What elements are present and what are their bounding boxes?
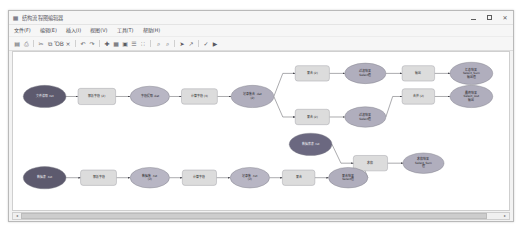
node-start-b[interactable]: 数据表 .txt	[23, 167, 66, 189]
toolbar-separator	[99, 40, 100, 47]
node-parse-b[interactable]: 解析字段	[81, 170, 117, 185]
node-field-a-label: 字段提取 .dat	[141, 93, 160, 98]
horizontal-scrollbar[interactable]: ◂ ▸	[12, 212, 510, 220]
play-icon[interactable]: ▶	[211, 39, 219, 48]
minimize-button[interactable]	[465, 11, 481, 24]
node-convert-a-label: 计算字段 (3)	[191, 93, 208, 98]
node-select-top-label: Select值	[359, 72, 371, 77]
flow-graph[interactable]: 文件读取 .txt解析字段 (2)字段提取 .dat计算字段 (3)记录集合 .…	[13, 52, 509, 210]
node-start-b-label: 数据表 .txt	[37, 174, 53, 179]
node-field-b-label: (2)	[148, 177, 152, 181]
node-hub-a[interactable]: 记录集合 .dat(2)	[231, 85, 274, 107]
title-bar: ▦ 结构流程图编辑器 ✕	[9, 11, 513, 25]
menu-item-view[interactable]: 视图(V)	[89, 27, 108, 34]
node-sum[interactable]: 求和	[353, 155, 387, 170]
menu-item-insert[interactable]: 插入(I)	[65, 27, 82, 34]
menu-item-tools[interactable]: 工具(T)	[116, 27, 135, 34]
align-icon[interactable]: ▣	[121, 39, 129, 48]
diagram-icon: ▦	[12, 14, 19, 21]
node-join-label: 合并 (2)	[413, 93, 424, 98]
node-select-mid-label: Select值	[359, 116, 371, 121]
paste-icon[interactable]: ὌB	[55, 39, 63, 48]
node-select-mid[interactable]: 过滤结果Select值	[345, 107, 386, 128]
node-branch-dark[interactable]: 数据库表 .txt	[289, 133, 332, 155]
toolbar-separator	[174, 40, 175, 47]
cursor-icon[interactable]: ➤	[178, 39, 186, 48]
application-window: ▦ 结构流程图编辑器 ✕ 文件(F)编辑(E)插入(I)视图(V)工具(T)帮助…	[8, 10, 514, 222]
node-convert-b[interactable]: 计算字段	[182, 170, 216, 185]
node-output-top-label: 输出	[415, 70, 421, 75]
node-sum-result[interactable]: 求和结果Select_Sum值	[403, 153, 444, 174]
node-convert-a[interactable]: 计算字段 (3)	[181, 89, 217, 104]
connector-icon[interactable]: ↗	[187, 39, 195, 48]
zoom-in-icon[interactable]: ⌕	[154, 39, 162, 48]
menu-item-edit[interactable]: 编辑(E)	[39, 27, 58, 34]
cut-icon[interactable]: ✂	[37, 39, 45, 48]
node-result-top-label: 输出值	[467, 74, 476, 79]
toolbar-separator	[75, 40, 76, 47]
toolbar-separator	[198, 40, 199, 47]
node-final-label: 输出	[468, 97, 474, 102]
grid-icon[interactable]: ▦	[112, 39, 120, 48]
node-select-top[interactable]: 过滤结果Select值	[345, 63, 386, 84]
close-button[interactable]: ✕	[497, 11, 513, 24]
node-output-top[interactable]: 输出	[402, 66, 434, 81]
node-result-b-label: Select值	[342, 176, 354, 181]
distribute-icon[interactable]: ☰	[130, 39, 138, 48]
scroll-right-button[interactable]: ▸	[501, 213, 509, 219]
node-merge-mid[interactable]: 聚合 (2)	[295, 109, 329, 124]
save-icon[interactable]: ▤	[13, 39, 21, 48]
edge-n5-n6[interactable]	[274, 73, 295, 96]
node-layer: 文件读取 .txt解析字段 (2)字段提取 .dat计算字段 (3)记录集合 .…	[23, 62, 492, 189]
edge-n14-n15[interactable]	[332, 144, 353, 163]
node-join[interactable]: 合并 (2)	[402, 89, 434, 104]
node-parse-b-label: 解析字段	[93, 174, 105, 179]
node-hub-a-label: (2)	[250, 96, 254, 100]
node-field-b[interactable]: 数据集 .txt(2)	[130, 167, 169, 188]
window-title: 结构流程图编辑器	[22, 14, 64, 21]
node-hub-b-label: (2)	[248, 177, 252, 181]
check-icon[interactable]: ✓	[202, 39, 210, 48]
edge-n5-n10[interactable]	[274, 96, 295, 117]
maximize-icon	[487, 15, 492, 20]
window-controls: ✕	[465, 11, 513, 24]
scroll-left-button[interactable]: ◂	[13, 213, 21, 219]
print-icon[interactable]: ⎙	[22, 39, 30, 48]
undo-icon[interactable]: ↶	[79, 39, 87, 48]
plus-icon[interactable]: ✚	[103, 39, 111, 48]
node-result-top[interactable]: 汇总结果Select_Sum输出值	[450, 62, 493, 84]
menu-item-help[interactable]: 帮助(H)	[142, 27, 162, 34]
node-field-a[interactable]: 字段提取 .dat	[130, 86, 169, 107]
node-merge-top[interactable]: 聚合 (2)	[295, 66, 329, 81]
menu-bar: 文件(F)编辑(E)插入(I)视图(V)工具(T)帮助(H)	[9, 25, 513, 37]
node-merge-top-label: 聚合 (2)	[307, 70, 318, 75]
toolbar-separator	[33, 40, 34, 47]
close-icon[interactable]: ×	[64, 39, 72, 48]
node-branch-dark-label: 数据库表 .txt	[302, 141, 321, 146]
redo-icon[interactable]: ↷	[88, 39, 96, 48]
copy-icon[interactable]: ⧉	[46, 39, 54, 48]
menu-item-file[interactable]: 文件(F)	[13, 27, 32, 34]
node-parse-a-label: 解析字段 (2)	[88, 93, 105, 98]
node-final[interactable]: 最终结果Select_Out输出	[450, 85, 493, 107]
maximize-button[interactable]	[481, 11, 497, 24]
edge-n11-n12[interactable]	[386, 96, 402, 117]
node-agg-b[interactable]: 聚合	[282, 170, 314, 185]
toolbar-separator	[150, 40, 151, 47]
close-icon: ✕	[502, 15, 507, 21]
node-hub-b[interactable]: 记录集 .txt(2)	[230, 167, 269, 188]
node-start-a[interactable]: 文件读取 .txt	[23, 85, 66, 107]
node-result-b[interactable]: 聚合结果Select值	[329, 167, 368, 188]
layout-icon[interactable]: ∷	[139, 39, 147, 48]
node-agg-b-label: 聚合	[296, 174, 302, 179]
scrollbar-track[interactable]	[21, 213, 501, 219]
scrollbar-thumb[interactable]	[21, 213, 487, 219]
zoom-out-icon[interactable]: ⌕	[163, 39, 171, 48]
diagram-canvas[interactable]: 文件读取 .txt解析字段 (2)字段提取 .dat计算字段 (3)记录集合 .…	[12, 51, 510, 211]
node-start-a-label: 文件读取 .txt	[36, 93, 55, 98]
minimize-icon	[471, 19, 476, 20]
node-parse-a[interactable]: 解析字段 (2)	[78, 88, 116, 104]
toolbar: ▤⎙✂⧉ὌB×↶↷✚▦▣☰∷⌕⌕➤↗✓▶	[9, 37, 513, 51]
node-sum-result-label: 值	[422, 163, 425, 168]
node-merge-mid-label: 聚合 (2)	[307, 114, 318, 119]
